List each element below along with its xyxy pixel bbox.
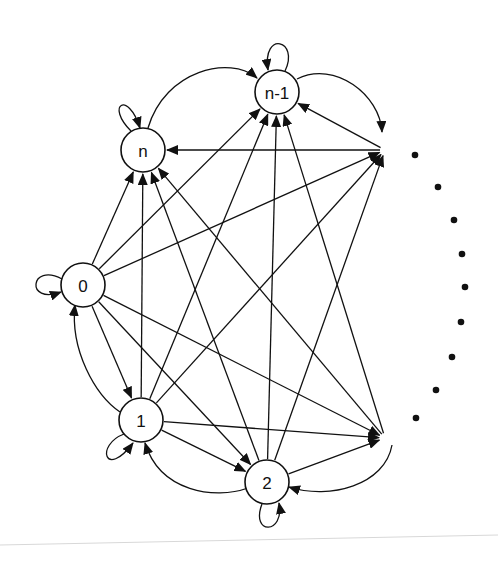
edge-2-to-1 (145, 443, 248, 493)
state-node-n: n (121, 128, 165, 172)
node-label: 0 (78, 277, 87, 296)
edge-0-to-n-1 (99, 109, 260, 269)
ellipsis-dot (458, 319, 465, 326)
edge-1-to-2 (162, 430, 246, 471)
node-label: n (138, 142, 147, 161)
self-loop-0 (36, 275, 62, 295)
ellipsis-dot (412, 152, 419, 159)
edge-top-right-to-n-1 (298, 103, 380, 147)
edge-2-to-n (151, 172, 259, 460)
ellipsis-dot (413, 415, 420, 422)
edge-1-to-top-right (156, 154, 381, 402)
self-loop-n (119, 105, 140, 131)
node-label: n-1 (265, 84, 290, 103)
state-node-1: 1 (119, 398, 163, 442)
ellipsis-dot (449, 354, 456, 361)
edge-1-to-n (141, 174, 143, 397)
edge-2-to-bottom-right (289, 440, 380, 474)
ellipsis-dot (451, 217, 458, 224)
node-label: 1 (136, 412, 145, 431)
self-loop-2 (259, 503, 279, 527)
edge-1-to-0 (74, 305, 120, 412)
edge-bottom-right-to-n-1 (284, 115, 383, 433)
node-label: 2 (262, 474, 271, 493)
edge-2-to-top-right (275, 156, 383, 461)
state-node-0: 0 (61, 263, 105, 307)
page-edge-line (0, 535, 498, 545)
state-node-n-1: n-1 (255, 70, 299, 114)
ellipsis-dot (435, 184, 442, 191)
self-loop-n-1 (267, 44, 288, 71)
ellipsis-dots (412, 152, 469, 422)
edge-n-to-n-1 (148, 68, 257, 128)
state-transition-diagram: nn-1012 (0, 0, 498, 567)
edge-n-1-to-top-right (297, 74, 382, 132)
edge-0-to-1 (92, 306, 131, 398)
edge-2-to-n-1 (268, 116, 277, 459)
ellipsis-dot (459, 251, 466, 258)
edge-0-to-n (92, 172, 133, 264)
edge-1-to-n-1 (150, 114, 268, 399)
edge-1-to-bottom-right (164, 422, 379, 438)
edge-bottom-right-to-n (158, 168, 381, 434)
ellipsis-dot (433, 387, 440, 394)
ellipsis-dot (462, 284, 469, 291)
state-node-2: 2 (245, 460, 289, 504)
